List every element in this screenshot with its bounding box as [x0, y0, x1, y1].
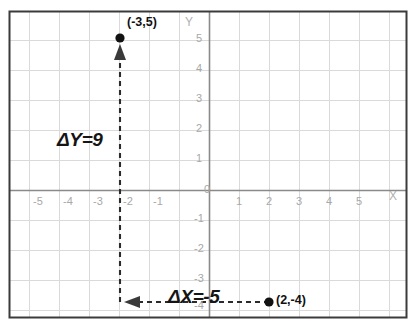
y-tick-label-2: 2	[196, 123, 202, 134]
x-tick-label-5: 5	[356, 196, 362, 207]
y-tick-label-4: 4	[196, 63, 202, 74]
x-tick-label-neg5: -5	[33, 196, 43, 207]
y-axis-name-label: Y	[185, 16, 193, 28]
y-tick-label-1: 1	[196, 153, 202, 164]
origin-label: 0	[204, 184, 210, 195]
point-label-a: (-3,5)	[127, 16, 157, 29]
graph-figure: -5 -4 -3 -2 -1 1 2 3 4 5 5 4 3 2 1 -1 -2…	[0, 0, 416, 329]
plot-background	[9, 11, 407, 318]
x-tick-label-neg1: -1	[153, 196, 163, 207]
x-tick-label-neg2: -2	[123, 196, 133, 207]
point-label-b: (2,-4)	[276, 294, 306, 307]
x-tick-label-3: 3	[296, 196, 302, 207]
data-point-a	[115, 33, 124, 42]
x-tick-label-neg4: -4	[63, 196, 73, 207]
delta-y-annotation: ΔY=9	[57, 130, 103, 149]
x-tick-label-2: 2	[266, 196, 272, 207]
y-tick-label-5: 5	[196, 33, 202, 44]
x-tick-label-1: 1	[236, 196, 242, 207]
delta-x-annotation: ΔX=-5	[168, 287, 219, 306]
y-tick-label-neg3: -3	[194, 273, 204, 284]
y-tick-label-neg2: -2	[194, 243, 204, 254]
x-axis-name-label: X	[389, 190, 397, 202]
y-tick-label-3: 3	[196, 93, 202, 104]
y-tick-label-neg1: -1	[194, 213, 204, 224]
x-tick-label-neg3: -3	[93, 196, 103, 207]
data-point-b	[264, 297, 273, 306]
x-tick-label-4: 4	[326, 196, 332, 207]
coordinate-plane-canvas	[0, 0, 416, 329]
